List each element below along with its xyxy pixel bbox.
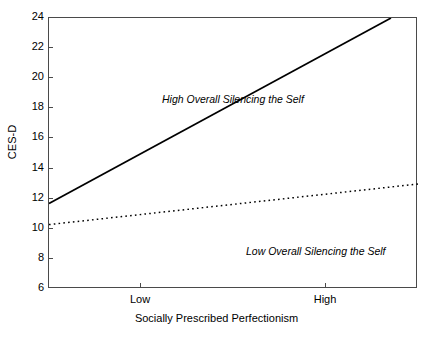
y-tick-label-14: 14 [18, 162, 44, 173]
x-axis-title: Socially Prescribed Perfectionism [0, 312, 433, 324]
x-tick-mark-high [325, 283, 326, 288]
y-tick-label-20: 20 [18, 71, 44, 82]
y-tick-mark-20 [48, 77, 53, 78]
plot-area: High Overall Silencing the Self Low Over… [48, 17, 417, 288]
series-annotation-low-silencing: Low Overall Silencing the Self [246, 245, 386, 257]
y-tick-label-6: 6 [18, 282, 44, 293]
y-tick-label-22: 22 [18, 41, 44, 52]
y-tick-label-8: 8 [18, 252, 44, 263]
y-tick-label-24: 24 [18, 11, 44, 22]
y-tick-label-16: 16 [18, 131, 44, 142]
y-tick-mark-10 [48, 228, 53, 229]
series-annotation-high-silencing: High Overall Silencing the Self [162, 93, 304, 105]
x-tick-label-low: Low [105, 293, 175, 305]
x-tick-label-high: High [290, 293, 360, 305]
chart-figure: High Overall Silencing the Self Low Over… [0, 0, 433, 337]
y-tick-mark-22 [48, 47, 53, 48]
x-tick-mark-low [140, 283, 141, 288]
y-tick-label-10: 10 [18, 222, 44, 233]
y-axis-title: CES-D [6, 112, 18, 172]
y-tick-label-12: 12 [18, 192, 44, 203]
y-tick-label-18: 18 [18, 101, 44, 112]
series-line-low-silencing [49, 184, 418, 225]
y-tick-mark-8 [48, 258, 53, 259]
y-tick-mark-18 [48, 107, 53, 108]
y-tick-mark-12 [48, 198, 53, 199]
series-line-high-silencing [49, 18, 391, 204]
y-tick-labels: 24 22 20 18 16 14 12 10 8 6 [14, 0, 44, 337]
y-tick-mark-14 [48, 168, 53, 169]
y-tick-mark-24 [48, 17, 53, 18]
y-tick-mark-16 [48, 137, 53, 138]
